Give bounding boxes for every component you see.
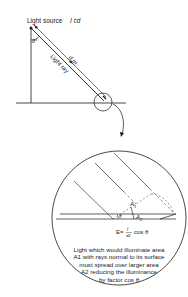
formula-lhs: E= bbox=[116, 229, 124, 235]
distance-label: d m bbox=[67, 54, 78, 65]
caption: Light which would illuminate area A1 wit… bbox=[60, 246, 178, 283]
area-a1-curve bbox=[151, 194, 174, 213]
caption-line: Light which would illuminate area bbox=[60, 246, 178, 253]
formula-numerator: I bbox=[127, 227, 129, 232]
light-ray-line bbox=[31, 28, 104, 101]
formula-denominator: d2 bbox=[126, 233, 131, 238]
overview-figure: Light source I cd θ° d m Light ray bbox=[16, 17, 126, 137]
caption-line: by factor cos θ bbox=[60, 276, 178, 283]
ray-line-1 bbox=[74, 181, 113, 219]
ray-line-3-dashed bbox=[150, 189, 174, 213]
caption-line: must spread over larger area bbox=[60, 261, 178, 268]
a1-label: A1 bbox=[129, 201, 136, 209]
light-source-label: Light source bbox=[27, 17, 63, 25]
small-angle-label: θ bbox=[119, 214, 122, 219]
surface-edge bbox=[160, 214, 176, 219]
ray-line-2 bbox=[95, 163, 124, 192]
caption-line: A1 with rays normal to its surface bbox=[60, 253, 178, 260]
a1-pointer bbox=[131, 207, 134, 219]
detail-callout-circle bbox=[94, 93, 112, 111]
formula-rhs: cos θ bbox=[134, 229, 149, 235]
angle-label: θ° bbox=[32, 38, 38, 44]
caption-line: A2 reducing the illuminance bbox=[60, 268, 178, 275]
a2-label: A2 bbox=[135, 214, 143, 222]
intensity-label: I cd bbox=[70, 17, 81, 24]
ray-line-3 bbox=[114, 153, 150, 189]
arrowhead-icon bbox=[120, 132, 124, 137]
curved-arrow-icon bbox=[113, 104, 124, 134]
small-angle-arc bbox=[117, 215, 118, 220]
